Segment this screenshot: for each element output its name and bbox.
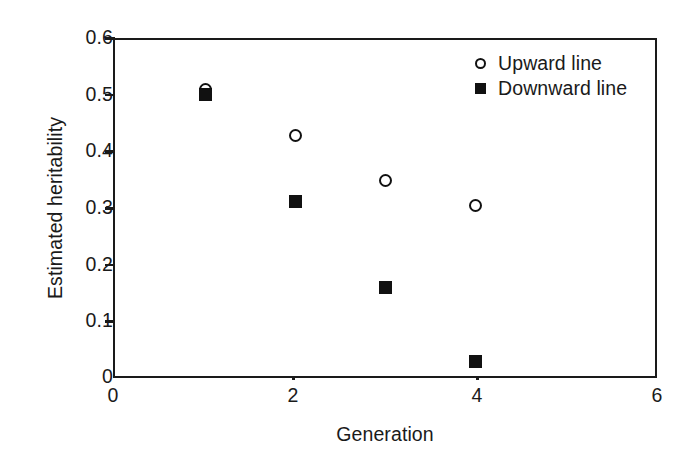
y-tick-label: 0.4 — [37, 141, 113, 161]
y-tick-label: 0.6 — [37, 28, 113, 48]
data-point-upward-gen4 — [469, 199, 482, 212]
legend: Upward line Downward line — [468, 51, 627, 101]
data-point-downward-gen3 — [379, 281, 392, 294]
y-tick-label: 0.1 — [37, 311, 113, 331]
legend-label: Upward line — [492, 51, 602, 76]
y-tick-label: 0 — [37, 367, 113, 387]
data-point-upward-gen3 — [379, 174, 392, 187]
filled-square-icon — [468, 83, 492, 94]
y-tick-label: 0.3 — [37, 198, 113, 218]
legend-label: Downward line — [492, 76, 627, 101]
legend-item-upward-line: Upward line — [468, 51, 627, 76]
y-tick-label: 0.2 — [37, 255, 113, 275]
heritability-scatter-figure: Estimated heritability Generation 0.6 0.… — [0, 0, 694, 457]
data-point-downward-gen4 — [469, 355, 482, 368]
x-tick-label: 0 — [83, 386, 143, 406]
x-tick-label: 2 — [263, 386, 323, 406]
x-tick-label: 6 — [627, 386, 687, 406]
open-circle-icon — [468, 58, 492, 69]
x-axis-title: Generation — [113, 423, 657, 446]
legend-item-downward-line: Downward line — [468, 76, 627, 101]
data-point-downward-gen2 — [289, 195, 302, 208]
data-point-downward-gen1 — [199, 88, 212, 101]
x-tick-label: 4 — [447, 386, 507, 406]
data-point-upward-gen2 — [289, 129, 302, 142]
y-tick-label: 0.5 — [37, 85, 113, 105]
